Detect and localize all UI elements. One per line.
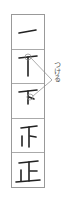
step-2-glyph [19,56,37,76]
annotation-label: つける [53,61,61,82]
step-3-glyph [19,90,37,104]
stroke-drawings [0,0,67,198]
annotation-leaders [25,54,52,100]
step-4-glyph [21,126,37,147]
step-5-glyph [16,161,40,182]
step-1-glyph [19,30,36,33]
